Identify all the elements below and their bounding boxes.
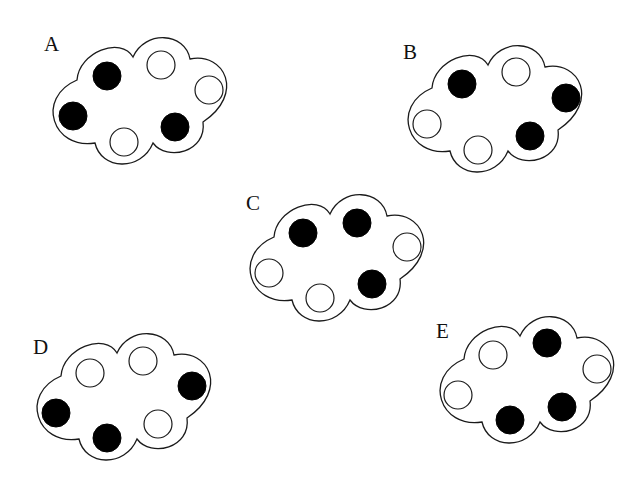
white-dot xyxy=(413,110,441,138)
black-dot xyxy=(178,372,206,400)
white-dot xyxy=(255,259,283,287)
black-dot xyxy=(358,270,386,298)
cloud-e: E xyxy=(436,317,614,443)
black-dot xyxy=(552,84,580,112)
black-dot xyxy=(548,393,576,421)
clouds-layer: ABCDE xyxy=(33,32,614,460)
black-dot xyxy=(93,62,121,90)
cloud-label: C xyxy=(246,191,260,215)
cloud-label: B xyxy=(403,40,417,64)
black-dot xyxy=(533,329,561,357)
black-dot xyxy=(343,209,371,237)
black-dot xyxy=(516,122,544,150)
white-dot xyxy=(479,341,507,369)
white-dot xyxy=(110,128,138,156)
white-dot xyxy=(583,355,611,383)
cloud-label: A xyxy=(44,32,60,56)
cloud-label: D xyxy=(33,335,48,359)
black-dot xyxy=(289,219,317,247)
cloud-a: A xyxy=(44,32,227,164)
black-dot xyxy=(59,102,87,130)
cloud-outline xyxy=(408,46,582,172)
white-dot xyxy=(464,136,492,164)
white-dot xyxy=(502,58,530,86)
cloud-label: E xyxy=(436,319,449,343)
black-dot xyxy=(496,406,524,434)
cloud-figure: ABCDE xyxy=(0,0,644,477)
black-dot xyxy=(93,424,121,452)
cloud-c: C xyxy=(246,191,424,321)
black-dot xyxy=(161,113,189,141)
black-dot xyxy=(448,70,476,98)
cloud-b: B xyxy=(403,40,582,172)
white-dot xyxy=(147,51,175,79)
white-dot xyxy=(76,359,104,387)
black-dot xyxy=(42,399,70,427)
white-dot xyxy=(444,381,472,409)
white-dot xyxy=(129,347,157,375)
white-dot xyxy=(195,76,223,104)
white-dot xyxy=(306,284,334,312)
white-dot xyxy=(393,233,421,261)
white-dot xyxy=(144,410,172,438)
cloud-d: D xyxy=(33,334,211,460)
